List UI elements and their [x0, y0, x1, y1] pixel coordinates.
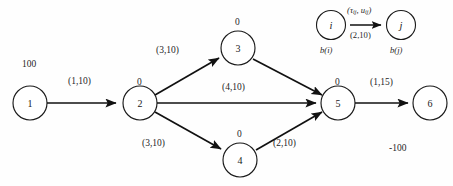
legend-tau-subscript: ij — [353, 8, 356, 15]
legend-arc-notation: (τij, uij) — [347, 6, 371, 16]
node-2-label: 2 — [138, 98, 143, 109]
node-1-label: 1 — [28, 98, 33, 109]
arc-2-5-label: (4,10) — [222, 83, 245, 93]
arc-5-6-label: (1,15) — [370, 78, 393, 88]
node-5-balance-label: 0 — [335, 78, 340, 88]
node-3-balance-label: 0 — [235, 18, 240, 28]
node-4-label: 4 — [238, 155, 243, 166]
arc-2-3-label: (3,10) — [156, 46, 179, 56]
legend-node-i-balance: b(i) — [320, 46, 332, 55]
legend-arc-example-values: (2,10) — [350, 31, 371, 40]
legend-node-i-label: i — [330, 20, 333, 31]
node-3-label: 3 — [236, 43, 241, 54]
node-2-balance-label: 0 — [137, 78, 142, 88]
node-4-balance-label: 0 — [237, 130, 242, 140]
node-5-label: 5 — [336, 98, 341, 109]
node-6-label: 6 — [428, 98, 433, 109]
arc-2-3 — [155, 58, 219, 95]
diagram-canvas: 1 2 3 4 5 6 i j — [0, 0, 453, 186]
legend-u-subscript: ij — [365, 8, 368, 15]
network-flow-diagram: 1 2 3 4 5 6 i j 100 0 0 0 0 -100 (1,10) … — [0, 0, 453, 186]
arc-4-5-label: (2,10) — [273, 139, 296, 149]
arc-2-4-label: (3,10) — [142, 139, 165, 149]
node-6-balance-label: -100 — [389, 144, 406, 154]
arc-1-2-label: (1,10) — [68, 77, 91, 87]
node-1-balance-label: 100 — [22, 60, 36, 70]
arc-3-5 — [253, 59, 322, 95]
legend-node-j-balance: b(j) — [390, 46, 402, 55]
